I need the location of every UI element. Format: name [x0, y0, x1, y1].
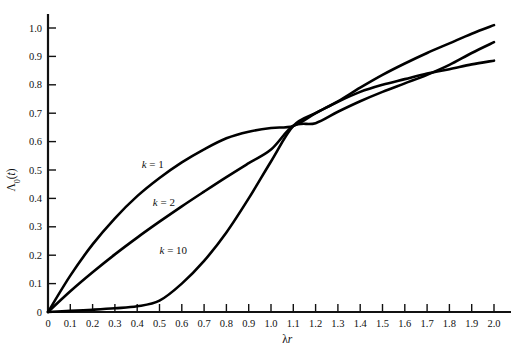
x-tick-label: 1.3 — [331, 318, 344, 329]
x-tick-label: 0.4 — [131, 318, 145, 329]
y-axis-title-text: Λ0(t) — [5, 168, 22, 191]
x-tick-label: 1.8 — [443, 318, 456, 329]
x-tick-label: 1.2 — [309, 318, 322, 329]
x-tick-label: 1.1 — [287, 318, 300, 329]
x-axis-tick-labels: 00.10.20.30.40.50.60.70.80.91.01.11.21.3… — [45, 318, 500, 329]
y-tick-label: 0.9 — [29, 51, 42, 62]
x-tick-label: 1.6 — [398, 318, 411, 329]
x-tick-label: 1.4 — [354, 318, 368, 329]
x-tick-label: 1.7 — [421, 318, 434, 329]
y-tick-label: 0.7 — [29, 108, 42, 119]
y-axis-ticks — [48, 28, 56, 312]
x-tick-label: 0.7 — [198, 318, 211, 329]
x-axis-title-text: λr — [282, 333, 293, 345]
chart-canvas: 00.10.20.30.40.50.60.70.80.91.0 00.10.20… — [0, 0, 522, 353]
curve-label-k-1: k = 1 — [142, 158, 164, 170]
x-tick-label: 0.1 — [64, 318, 77, 329]
y-tick-label: 0.2 — [29, 250, 42, 261]
data-curves — [48, 25, 494, 312]
y-tick-label: 0.8 — [29, 79, 42, 90]
x-tick-label: 2.0 — [487, 318, 500, 329]
curve-label-text: k = 10 — [160, 244, 188, 256]
x-tick-label: 0.2 — [86, 318, 99, 329]
y-tick-label: 0.1 — [29, 278, 42, 289]
x-tick-label: 0.5 — [153, 318, 166, 329]
x-tick-label: 1.0 — [264, 318, 277, 329]
curve-label-k-10: k = 10 — [160, 244, 188, 256]
curve-k-1 — [48, 25, 494, 312]
y-tick-label: 0 — [37, 307, 42, 318]
y-axis-tick-labels: 00.10.20.30.40.50.60.70.80.91.0 — [29, 23, 43, 318]
x-axis-title: λr — [282, 333, 293, 345]
curve-label-text: k = 2 — [153, 196, 175, 208]
curve-k-10 — [48, 61, 494, 312]
y-tick-label: 1.0 — [29, 23, 42, 34]
curve-label-k-2: k = 2 — [153, 196, 175, 208]
x-tick-label: 0 — [45, 318, 50, 329]
curve-k-2 — [48, 42, 494, 312]
curve-label-text: k = 1 — [142, 158, 164, 170]
y-tick-label: 0.4 — [29, 193, 43, 204]
y-tick-label: 0.5 — [29, 165, 42, 176]
x-tick-label: 1.9 — [465, 318, 478, 329]
x-tick-label: 0.8 — [220, 318, 233, 329]
x-tick-label: 0.9 — [242, 318, 255, 329]
y-tick-label: 0.6 — [29, 136, 42, 147]
x-tick-label: 1.5 — [376, 318, 389, 329]
x-tick-label: 0.6 — [175, 318, 188, 329]
figure-container: 00.10.20.30.40.50.60.70.80.91.0 00.10.20… — [0, 0, 522, 353]
x-tick-label: 0.3 — [108, 318, 121, 329]
y-tick-label: 0.3 — [29, 221, 42, 232]
y-axis-title: Λ0(t) — [5, 168, 22, 191]
